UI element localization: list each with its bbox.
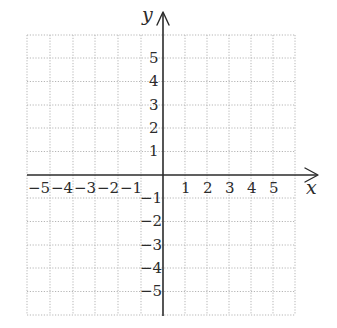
y-tick-label: 5 <box>149 49 159 67</box>
y-tick-label: −3 <box>140 236 162 254</box>
x-tick-label: −2 <box>97 179 119 197</box>
x-tick-label: −5 <box>28 179 50 197</box>
y-tick-label: −5 <box>140 282 162 300</box>
x-tick-label: −3 <box>74 179 96 197</box>
y-axis-label: y <box>141 3 153 25</box>
x-tick-label: 3 <box>225 179 235 197</box>
x-axis-label: x <box>306 176 317 198</box>
y-tick-label: 4 <box>149 72 159 90</box>
y-tick-label: −4 <box>140 259 162 277</box>
coordinate-plane: y x −5 −4 −3 −2 −1 1 2 3 4 5 5 4 3 2 1 −… <box>0 0 337 328</box>
y-tick-label: −2 <box>140 212 162 230</box>
x-tick-label: 1 <box>181 179 191 197</box>
y-tick-label: −1 <box>140 189 162 207</box>
x-tick-label: 5 <box>269 179 279 197</box>
x-tick-label: 4 <box>247 179 257 197</box>
y-tick-label: 3 <box>149 96 159 114</box>
x-tick-label: 2 <box>203 179 213 197</box>
x-tick-label: −1 <box>120 179 142 197</box>
y-tick-label: 2 <box>149 119 159 137</box>
x-tick-label: −4 <box>51 179 73 197</box>
y-tick-label: 1 <box>149 142 159 160</box>
